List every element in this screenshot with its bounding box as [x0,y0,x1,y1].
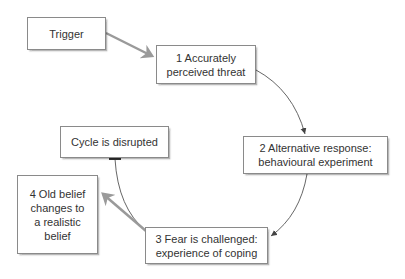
arrow-step1-to-step2 [256,70,305,134]
node-step2-alternative-response: 2 Alternative response: behavioural expe… [243,136,388,174]
node-step1-perceived-threat: 1 Accurately perceived threat [156,45,256,84]
node-step3-fear-challenged: 3 Fear is challenged: experience of copi… [145,227,268,264]
line-step3-to-disrupted [109,159,146,231]
node-step4-old-belief-changes: 4 Old belief changes to a realistic beli… [17,175,98,254]
node-label: 2 Alternative response: behavioural expe… [258,141,372,169]
node-cycle-disrupted: Cycle is disrupted [60,126,169,158]
arrow-trigger-to-step1 [106,33,152,56]
node-label: 1 Accurately perceived threat [167,51,246,79]
node-label: 4 Old belief changes to a realistic beli… [30,187,86,243]
node-label: Cycle is disrupted [71,135,158,149]
node-label: Trigger [49,27,83,41]
node-trigger: Trigger [27,17,106,50]
node-label: 3 Fear is challenged: experience of copi… [155,232,257,260]
arrow-step3-to-step4 [103,194,146,231]
arrow-step2-to-step3 [271,174,307,236]
